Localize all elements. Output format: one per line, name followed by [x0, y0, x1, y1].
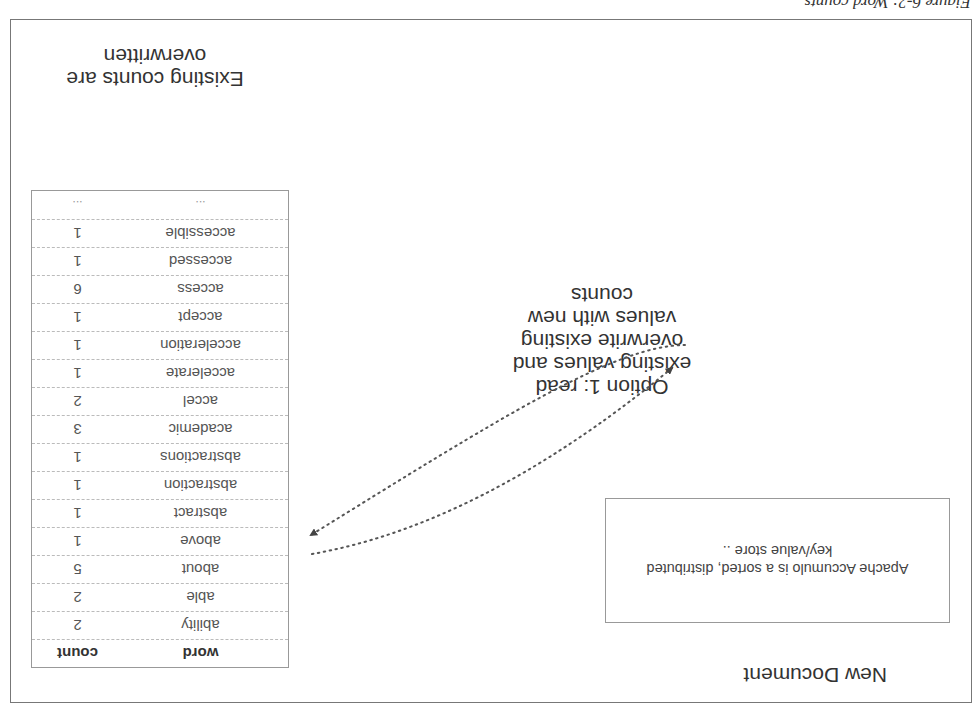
option-1-label: Option 1: read existing values and overw… [507, 284, 697, 399]
cell-count: 3 [32, 421, 123, 438]
table-row: above1 [32, 527, 288, 555]
cell-word: abstractions [123, 449, 288, 466]
caption-text: Figure 6-2: Word counts ... [787, 0, 971, 12]
header-word: word [123, 645, 288, 662]
table-row-ellipsis: ...... [32, 191, 288, 219]
cell-count: 1 [32, 337, 123, 354]
cell-word: ability [123, 617, 288, 634]
table-row: abstract1 [32, 499, 288, 527]
cell-count: 1 [32, 477, 123, 494]
new-document-content: Apache Accumulo is a sorted, distributed… [618, 543, 938, 579]
cell-word: ... [123, 198, 288, 212]
table-header-row: word count [32, 639, 288, 667]
table-row: access6 [32, 275, 288, 303]
cell-word: abstract [123, 505, 288, 522]
table-row: accept1 [32, 303, 288, 331]
cell-word: about [123, 561, 288, 578]
cell-word: accel [123, 393, 288, 410]
cell-word: academic [123, 421, 288, 438]
cell-count: 5 [32, 561, 123, 578]
cell-count: ... [32, 198, 123, 212]
table-row: accessed1 [32, 247, 288, 275]
cell-word: accessible [123, 225, 288, 242]
cell-count: 1 [32, 309, 123, 326]
table-row: accelerate1 [32, 359, 288, 387]
table-row: accel2 [32, 387, 288, 415]
cell-count: 1 [32, 365, 123, 382]
cell-word: abstraction [123, 477, 288, 494]
cell-count: 1 [32, 225, 123, 242]
word-count-diagram: Figure 6-2: Word counts ... New Document… [0, 0, 975, 711]
table-row: accessible1 [32, 219, 288, 247]
cell-word: accelerate [123, 365, 288, 382]
cell-count: 1 [32, 253, 123, 270]
cell-word: accept [123, 309, 288, 326]
cell-word: acceleration [123, 337, 288, 354]
table-row: about5 [32, 555, 288, 583]
cell-count: 2 [32, 589, 123, 606]
cell-count: 2 [32, 393, 123, 410]
new-document-box: Apache Accumulo is a sorted, distributed… [605, 498, 950, 623]
figure-caption: Figure 6-2: Word counts ... [0, 0, 975, 18]
new-document-title: New Document [743, 663, 887, 687]
table-row: acceleration1 [32, 331, 288, 359]
cell-count: 1 [32, 533, 123, 550]
cell-word: above [123, 533, 288, 550]
word-count-table: word count ability2 able2 about5 above1 … [31, 190, 289, 668]
cell-word: able [123, 589, 288, 606]
header-count: count [32, 645, 123, 662]
table-row: ability2 [32, 611, 288, 639]
cell-count: 6 [32, 281, 123, 298]
cell-count: 2 [32, 617, 123, 634]
table-row: academic3 [32, 415, 288, 443]
overwrite-annotation: Existing counts are overwritten [25, 45, 285, 91]
table-row: abstraction1 [32, 471, 288, 499]
cell-count: 1 [32, 449, 123, 466]
table-row: able2 [32, 583, 288, 611]
table-row: abstractions1 [32, 443, 288, 471]
cell-count: 1 [32, 505, 123, 522]
cell-word: accessed [123, 253, 288, 270]
cell-word: access [123, 281, 288, 298]
